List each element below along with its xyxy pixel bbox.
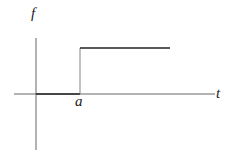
x-axis-label: t: [216, 85, 221, 101]
step-point-label: a: [75, 93, 83, 109]
step-function-diagram: f t a: [0, 0, 230, 163]
y-axis-label: f: [31, 5, 37, 21]
